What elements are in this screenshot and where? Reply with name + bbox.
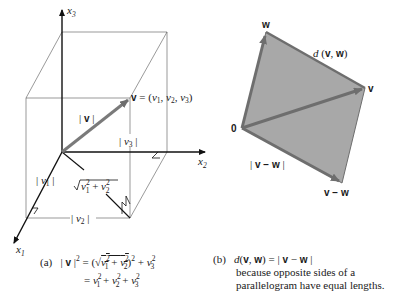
caption-a-line2: = v21 + v22 + v23: [84, 274, 139, 287]
caption-b-line3: parallelogram have equal lengths.: [236, 279, 384, 292]
floor-diagonal: [62, 152, 84, 170]
caption-a-line1: (a) | v |2 = (√v21 + v22)2 + v23: [40, 256, 154, 269]
right-angle-mark: [32, 208, 38, 214]
v-label: v: [368, 83, 374, 94]
figure-b-parallelogram: w v 0 v − w d (v, w) | v − w |: [231, 19, 374, 198]
w-label: w: [261, 19, 270, 30]
axis-x2-label: x2: [197, 155, 207, 170]
origin-label: 0: [231, 123, 237, 134]
svg-text:v21 + v22: v21 + v22: [81, 178, 110, 195]
abs-v3-label: | v3 |: [119, 135, 138, 149]
axis-x1-label: x1: [15, 243, 25, 258]
caption-b-line2: because opposite sides of a: [236, 266, 355, 279]
abs-v2-label: | v2 |: [71, 212, 90, 226]
right-angle-mark: [152, 152, 160, 158]
sqrt-label: v21 + v22: [74, 178, 118, 195]
caption-a-tag: (a): [40, 256, 52, 268]
axis-x1: [14, 152, 62, 243]
vector-v-point-label: v = (v1, v2, v3): [131, 91, 193, 105]
caption-b-line1: (b) d(v, w) = | v − w |: [213, 253, 312, 266]
distance-label: d (v, w): [313, 47, 348, 60]
v-minus-w-label: v − w: [324, 187, 349, 198]
figure-canvas: x3 x2 x1 v = (v1, v2, v3) | v | | v3 | |…: [0, 0, 393, 300]
norm-v-label: | v |: [79, 112, 94, 124]
figure-a-3d-box: x3 x2 x1 v = (v1, v2, v3) | v | | v3 | |…: [14, 4, 207, 258]
caption-b-tag: (b): [213, 253, 226, 265]
abs-v1-label: | v1 |: [36, 174, 55, 188]
norm-v-minus-w-label: | v − w |: [250, 158, 285, 170]
axis-x3-label: x3: [66, 4, 76, 19]
